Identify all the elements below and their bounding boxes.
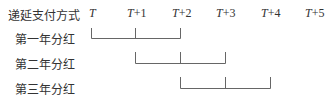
bracket-year2 (136, 52, 226, 64)
timeline-brackets (0, 0, 331, 104)
bracket-year1 (92, 28, 181, 39)
bracket-year3 (181, 77, 271, 89)
